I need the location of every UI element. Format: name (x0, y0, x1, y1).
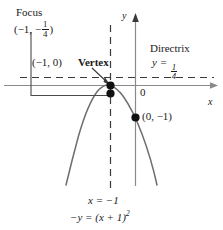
x-axis-arrowhead (210, 82, 218, 89)
directrix-label: Directrix (150, 42, 190, 55)
directrix-fraction-denominator: 4 (171, 71, 177, 81)
focus-coords-sign: − (35, 23, 41, 36)
focus-coordinates-label: (−1, −14) (14, 20, 53, 39)
directrix-equation-label: y = 14 (152, 56, 178, 81)
focus-label: Focus (16, 6, 42, 19)
y-axis-arrowhead (132, 13, 139, 22)
origin-label: 0 (140, 86, 146, 99)
focus-coords-open: (−1, (14, 23, 35, 35)
vertex-coordinates-label: (−1, 0) (32, 56, 62, 69)
focus-fraction-denominator: 4 (42, 29, 48, 39)
y-axis (132, 13, 139, 186)
directrix-equation-lhs: y = (152, 56, 170, 68)
focus-coords-negative-fraction: −14 (35, 20, 50, 39)
directrix-fraction: 14 (171, 63, 177, 82)
axis-of-symmetry-equation: x = −1 (88, 194, 119, 207)
parabola-curve (66, 85, 157, 185)
x-axis-label: x (208, 96, 212, 108)
vertex-word-label: Vertex (78, 56, 109, 69)
point-focus[interactable] (106, 89, 114, 97)
directrix-fraction-numerator: 1 (171, 63, 177, 72)
parabola-equation-exponent: 2 (126, 209, 130, 218)
parabola-figure: Focus (−1, −14) (−1, 0) Vertex Directrix… (0, 0, 223, 230)
focus-fraction-numerator: 1 (42, 20, 48, 29)
parabola-equation-lhs: −y = (x + 1) (70, 211, 126, 223)
vertex-leader-arrow (92, 68, 110, 85)
point-vertex[interactable] (106, 81, 114, 89)
focus-coords-close: ) (50, 23, 54, 35)
y-axis-label: y (122, 10, 126, 22)
point-y-intercept[interactable] (131, 113, 139, 121)
y-intercept-coordinates-label: (0, −1) (142, 110, 172, 123)
focus-fraction: 14 (42, 20, 48, 39)
parabola-equation: −y = (x + 1)2 (70, 209, 130, 223)
